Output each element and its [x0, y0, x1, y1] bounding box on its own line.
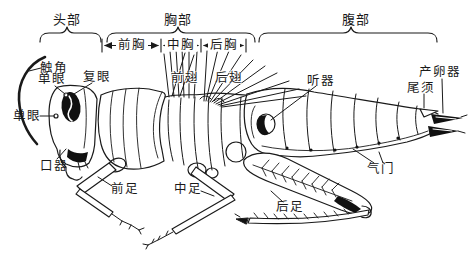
label-forewing: 前翅 — [171, 72, 199, 85]
label-mesothorax: 中胸 — [165, 39, 197, 52]
tympanum-fold — [251, 106, 255, 138]
label-cercus: 尾须 — [407, 82, 435, 95]
label-foreleg: 前足 — [111, 183, 139, 196]
label-midleg: 中足 — [174, 183, 202, 196]
label-hindwing: 后翅 — [215, 72, 243, 85]
label-metathorax: 后胸 — [208, 39, 240, 52]
midleg-tibia — [172, 195, 235, 234]
label-hindleg: 后足 — [276, 201, 304, 214]
midleg-tarsus — [143, 231, 173, 249]
label-abdomen-region: 腹部 — [342, 13, 370, 26]
pronotum — [98, 88, 165, 169]
label-ocellus-lower: 单眼 — [13, 110, 41, 123]
arrowhead — [151, 42, 159, 49]
pronotum-ridges — [110, 88, 162, 168]
abdomen-brace — [259, 27, 437, 42]
label-ovipositor: 产卵器 — [419, 66, 461, 79]
foreleg-tarsus — [112, 214, 144, 234]
ocellus-lower-shape — [54, 114, 58, 118]
head-crease — [84, 89, 86, 148]
head-brace — [40, 27, 101, 42]
hind-tarsus-claw — [235, 214, 248, 224]
thorax-panels — [168, 97, 243, 170]
abdomen-bottom-edge — [263, 132, 433, 157]
label-prothorax: 前胸 — [116, 39, 148, 52]
mandibles — [67, 149, 88, 162]
tympanum-crescent — [257, 115, 269, 135]
ovipositor-lower-valve — [428, 126, 459, 137]
label-mouthparts: 口器 — [40, 160, 68, 173]
midleg-leader — [201, 191, 214, 196]
label-thorax-region: 胸部 — [164, 13, 192, 26]
tympanum-leader — [271, 86, 316, 120]
label-ocellus-upper: 单眼 — [38, 73, 66, 86]
ovipositor-upper-valve — [431, 114, 463, 124]
ovipositor-leader — [442, 79, 443, 113]
arrowhead — [104, 42, 112, 49]
abdomen-group — [244, 88, 467, 156]
label-head-region: 头部 — [53, 13, 81, 26]
hind-coxa — [226, 142, 246, 162]
foreleg-tibia — [76, 189, 113, 217]
anatomy-figure: 头部 胸部 腹部 前胸 中胸 后胸 触角 单眼 复眼 单眼 口器 前足 中足 前… — [0, 0, 472, 258]
label-tympanum: 听器 — [307, 75, 335, 88]
label-compound-eye: 复眼 — [83, 71, 111, 84]
ocellus-upper-leader — [55, 86, 65, 94]
label-spiracle: 气门 — [367, 163, 395, 176]
